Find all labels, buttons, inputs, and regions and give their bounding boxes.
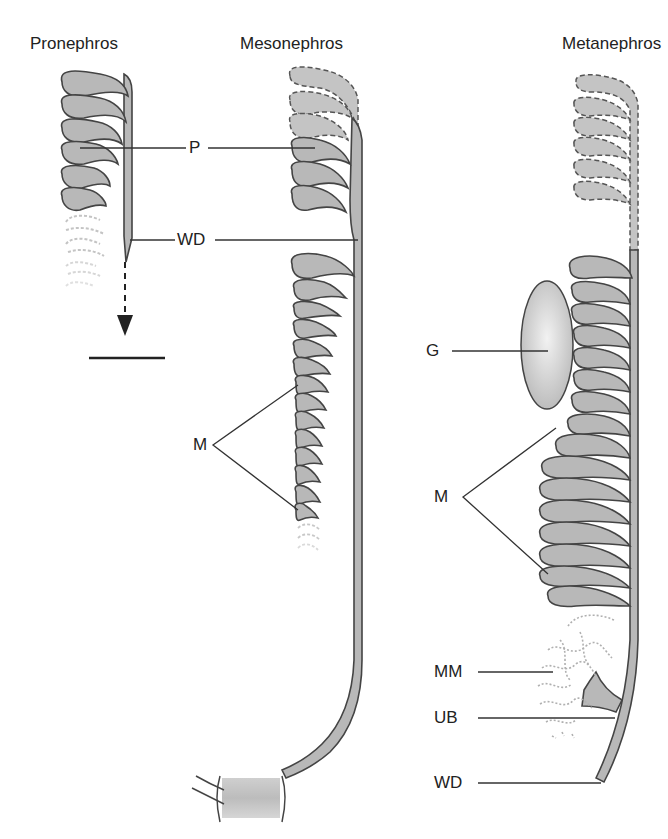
dashed-arrow [89,262,165,358]
label-wolffian-duct-bottom: WD [434,773,462,793]
degenerating-tubules [66,216,104,286]
label-wolffian-duct-top: WD [177,230,205,250]
mesonephros-structure [192,67,362,822]
metanephros-structure [521,75,638,782]
pronephros-structure [61,71,132,262]
leader-lines [80,148,615,783]
label-metanephric-mesenchyme: MM [434,662,462,682]
label-mesonephric-tubules: M [193,435,207,455]
label-mesonephric-tubules-meta: M [434,487,448,507]
label-gonad: G [426,341,439,361]
label-pronephric-tubule: P [189,138,200,158]
kidney-development-diagram [0,0,668,839]
label-ureteric-bud: UB [434,708,458,728]
